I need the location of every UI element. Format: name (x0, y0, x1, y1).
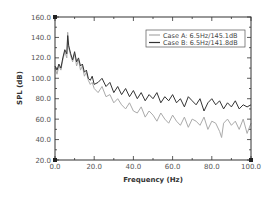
spl-frequency-chart: 0.020.040.060.080.0100.020.040.060.080.0… (0, 0, 269, 197)
y-tick-label: 160.0 (31, 14, 51, 22)
x-tick-label: 60.0 (165, 163, 181, 171)
x-tick-label: 100.0 (241, 163, 261, 171)
y-tick-label: 40.0 (35, 136, 51, 144)
y-axis-title: SPL (dB) (16, 71, 24, 105)
legend: Case A: 6.5Hz/145.1dB Case B: 6.5Hz/141.… (146, 30, 245, 47)
legend-label-case-b: Case B: 6.5Hz/141.8dB (163, 39, 238, 47)
y-tick-label: 60.0 (35, 116, 51, 124)
x-tick-label: 80.0 (204, 163, 220, 171)
y-tick-label: 100.0 (31, 75, 51, 83)
series-line-case-a (55, 32, 251, 137)
corner-marker (53, 15, 57, 19)
corner-marker (53, 158, 57, 162)
y-tick-label: 20.0 (35, 157, 51, 165)
y-tick-label: 80.0 (35, 95, 51, 103)
y-tick-label: 120.0 (31, 54, 51, 62)
corner-marker (249, 158, 253, 162)
y-tick-label: 140.0 (31, 34, 51, 42)
series-layer (55, 32, 251, 137)
x-tick-label: 20.0 (86, 163, 102, 171)
x-axis-title: Frequency (Hz) (123, 176, 183, 184)
x-tick-label: 40.0 (126, 163, 142, 171)
x-tick-label: 0.0 (49, 163, 60, 171)
